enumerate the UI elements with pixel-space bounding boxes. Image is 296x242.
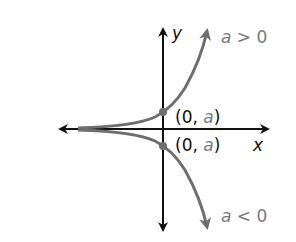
label-close: ) (214, 107, 221, 127)
point-lower-intercept (159, 142, 167, 150)
label-var: a (203, 135, 213, 155)
x-axis-label: x (253, 137, 263, 154)
label-a-greater-than-zero: a > 0 (221, 29, 267, 46)
label-var: a (203, 107, 213, 127)
label-close: ) (214, 135, 221, 155)
label-a-less-than-zero: a < 0 (221, 208, 267, 225)
label-op: > (231, 27, 256, 47)
label-lower-point: (0, a) (175, 137, 220, 154)
label-var: a (221, 27, 231, 47)
label-var: a (221, 206, 231, 226)
point-upper-intercept (159, 108, 167, 116)
label-op: < (231, 206, 256, 226)
label-upper-point: (0, a) (175, 109, 220, 126)
label-open: (0, (175, 107, 203, 127)
label-val: 0 (256, 206, 267, 226)
label-val: 0 (256, 27, 267, 47)
y-axis-label: y (172, 25, 182, 42)
label-open: (0, (175, 135, 203, 155)
